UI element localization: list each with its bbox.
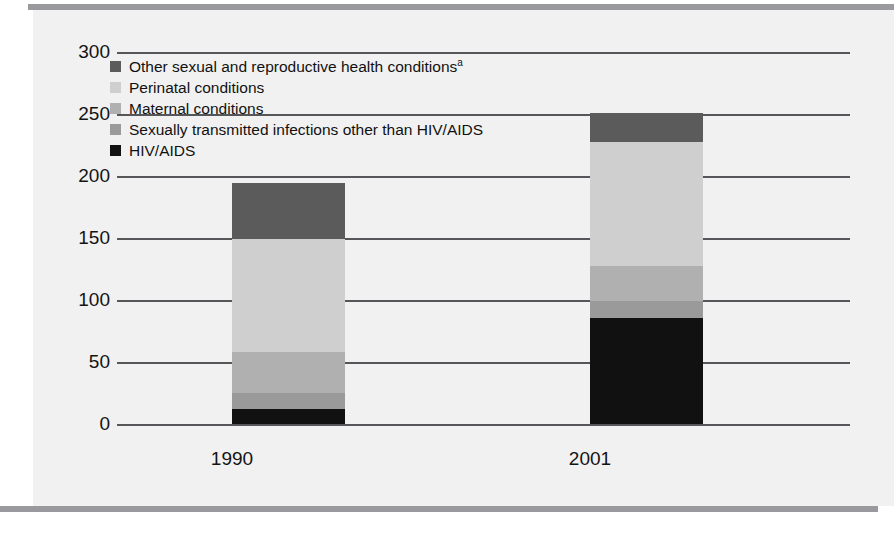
y-tick-label: 300 <box>58 42 110 61</box>
gridline-300 <box>117 52 850 54</box>
gridline-150 <box>117 238 850 240</box>
legend-item-label: Perinatal conditions <box>129 80 264 96</box>
legend-item[interactable]: Other sexual and reproductive health con… <box>110 56 530 77</box>
gridline-50 <box>117 362 850 364</box>
bar-segment[interactable] <box>590 318 703 425</box>
y-tick-label: 0 <box>58 414 110 433</box>
bar-segment[interactable] <box>232 239 345 352</box>
legend-item[interactable]: Maternal conditions <box>110 98 530 119</box>
legend-item-label: HIV/AIDS <box>129 143 195 159</box>
legend-item[interactable]: Sexually transmitted infections other th… <box>110 119 530 140</box>
bar-segment[interactable] <box>590 266 703 301</box>
y-tick-label: 100 <box>58 290 110 309</box>
legend-swatch-icon <box>110 124 121 135</box>
y-axis: 300 250 200 150 100 50 0 <box>52 52 110 425</box>
legend-item[interactable]: Perinatal conditions <box>110 77 530 98</box>
bar-1990[interactable] <box>232 183 345 425</box>
bar-segment[interactable] <box>590 113 703 142</box>
bar-segment[interactable] <box>590 142 703 266</box>
chart-legend: Other sexual and reproductive health con… <box>110 56 530 161</box>
bottom-divider-rule <box>0 506 878 512</box>
bar-segment[interactable] <box>232 393 345 409</box>
y-tick-label: 150 <box>58 228 110 247</box>
gridline-100 <box>117 300 850 302</box>
legend-item-label: Sexually transmitted infections other th… <box>129 122 483 138</box>
bar-segment[interactable] <box>232 409 345 425</box>
bar-segment[interactable] <box>232 352 345 393</box>
x-tick-label-2001: 2001 <box>500 448 680 470</box>
legend-footnote-marker: a <box>457 57 463 68</box>
x-axis-line <box>117 424 850 426</box>
bar-2001[interactable] <box>590 113 703 425</box>
legend-swatch-icon <box>110 61 121 72</box>
gridline-200 <box>117 176 850 178</box>
bar-segment[interactable] <box>232 183 345 239</box>
bar-segment[interactable] <box>590 301 703 318</box>
legend-item-label: Maternal conditions <box>129 101 263 117</box>
legend-swatch-icon <box>110 82 121 93</box>
y-tick-label: 250 <box>58 104 110 123</box>
legend-item-label: Other sexual and reproductive health con… <box>129 58 463 75</box>
legend-item[interactable]: HIV/AIDS <box>110 140 530 161</box>
y-tick-label: 50 <box>58 352 110 371</box>
legend-swatch-icon <box>110 103 121 114</box>
y-tick-label: 200 <box>58 166 110 185</box>
x-tick-label-1990: 1990 <box>142 448 322 470</box>
legend-swatch-icon <box>110 145 121 156</box>
